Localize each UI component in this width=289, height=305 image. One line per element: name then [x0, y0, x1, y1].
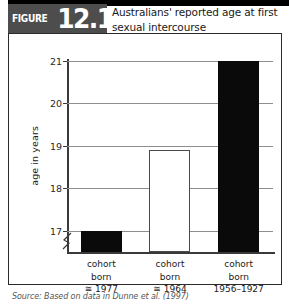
chart-frame: age in years 1718192021 cohortborn≅ 1977… — [8, 33, 282, 285]
figure-tag: FIGURE 12.12 — [8, 4, 107, 33]
x-axis-label-line: cohort — [67, 258, 136, 271]
x-axis-line — [67, 252, 275, 254]
y-tick-label-21: 21 — [50, 56, 62, 67]
bar-slot — [67, 61, 136, 252]
y-tick-label-19: 19 — [50, 140, 62, 151]
x-axis-label-line: born — [136, 271, 205, 284]
figure-panel: FIGURE 12.12 Australians' reported age a… — [0, 0, 289, 305]
bar-slot — [136, 61, 205, 252]
bar-slot — [204, 61, 273, 252]
bar[interactable] — [149, 150, 190, 252]
x-axis-label-line: cohort — [204, 258, 273, 271]
bar[interactable] — [218, 61, 259, 252]
x-axis-label-line: cohort — [136, 258, 205, 271]
x-axis-label: cohortborn1956–1927 — [204, 258, 273, 296]
y-tick-label-18: 18 — [50, 183, 62, 194]
figure-label: FIGURE — [12, 13, 47, 24]
x-axis-label-line: born — [67, 271, 136, 284]
y-axis-label: age in years — [29, 126, 40, 186]
figure-title: Australians' reported age at first sexua… — [112, 5, 284, 35]
x-axis-label-line: born — [204, 271, 273, 284]
bar[interactable] — [81, 231, 122, 252]
figure-number: 12.12 — [57, 5, 107, 32]
source-caption: Source: Based on data in Dunne et al. (1… — [12, 292, 282, 301]
bar-series — [67, 61, 273, 252]
x-axis-label: cohortborn≅ 1964 — [136, 258, 205, 296]
x-axis-label: cohortborn≅ 1977 — [67, 258, 136, 296]
y-tick-label-20: 20 — [50, 98, 62, 109]
